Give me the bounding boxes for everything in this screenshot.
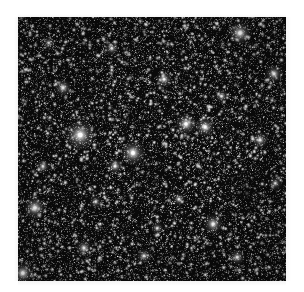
figure-page (0, 0, 304, 292)
star-field-canvas (18, 17, 286, 281)
panel-edge-right (286, 17, 291, 281)
star-field-image-panel (18, 17, 286, 281)
panel-edge-bottom (18, 281, 286, 286)
